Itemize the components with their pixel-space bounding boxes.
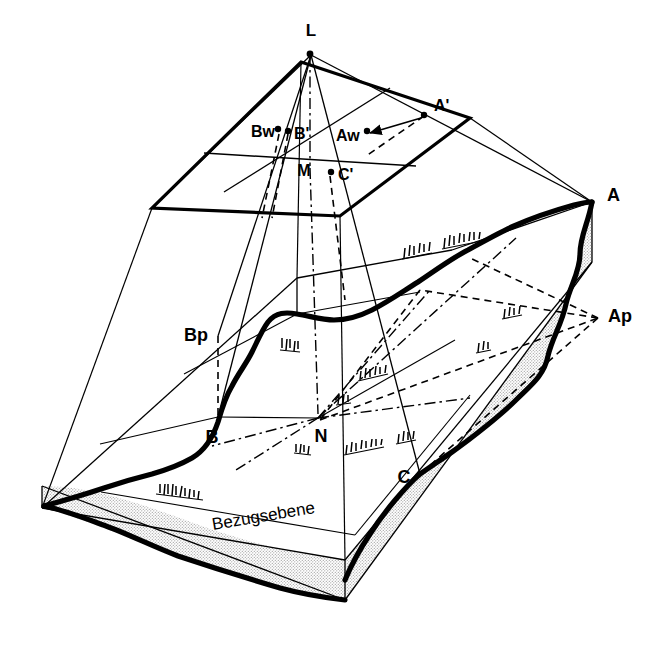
label-Aw: Aw [336, 127, 360, 144]
photogrammetry-diagram: L A' Bw B' Aw M C' A Ap Bp B N C Bezugse… [0, 0, 650, 647]
axis-M-to-N [310, 168, 318, 414]
dashed-Bw-down [262, 134, 279, 218]
ground-line-N-right [318, 340, 455, 418]
vegetation-tuft-plateau [280, 338, 300, 352]
vegetation-tuft-near-C [396, 431, 416, 444]
cone-edge-right [470, 118, 592, 202]
label-M: M [297, 162, 310, 179]
diagram-canvas: L A' Bw B' Aw M C' A Ap Bp B N C Bezugse… [0, 0, 650, 647]
aprime-to-aw-arrow [370, 118, 421, 133]
label-N: N [315, 426, 328, 446]
label-L: L [306, 21, 316, 40]
dot-L [307, 51, 314, 58]
vegetation-tuft-right-upper [502, 306, 522, 319]
label-A-prime: A' [434, 97, 449, 114]
label-B-prime: B' [294, 125, 309, 142]
dot-Aprime [421, 112, 427, 118]
dot-Cprime [328, 169, 334, 175]
nadir-ray-left [212, 418, 318, 446]
dashed-Cprime-down [330, 176, 345, 300]
cone-edge-left [42, 208, 152, 508]
label-bezugsebene: Bezugsebene [211, 498, 317, 534]
label-Ap: Ap [608, 306, 632, 326]
vegetation-tuft-upper-right [402, 232, 482, 259]
ground-line-through-B [100, 417, 218, 444]
label-B: B [206, 427, 219, 447]
vegetation-tuft-left-of-N [294, 444, 311, 455]
vegetation-tuft-low-mid [344, 439, 384, 455]
dot-Bw [275, 126, 281, 132]
nadir-ray-lower-left [236, 418, 318, 470]
vegetation-tuft-left [156, 484, 203, 500]
dot-Bprime [285, 128, 291, 134]
block-top-edge-left-back [42, 278, 297, 508]
arrow-Aprime-Aw [370, 118, 421, 133]
label-C: C [398, 467, 411, 487]
block-side-faces [42, 202, 592, 600]
bezugsebene-edge-right [355, 395, 470, 535]
ray-L-to-B [218, 55, 311, 417]
nadir-ray-right [318, 398, 470, 418]
ground-line-B-to-N [218, 417, 318, 418]
vegetation-tuft-near-Ap-left [476, 341, 491, 353]
terrain-profile-skyline [44, 202, 592, 506]
label-A: A [607, 185, 620, 205]
label-Bw: Bw [251, 123, 276, 140]
label-C-prime: C' [338, 166, 353, 183]
label-Bp: Bp [184, 325, 208, 345]
dot-Aw [364, 128, 370, 134]
construction-dashed-lines [218, 116, 598, 474]
dashed-Aprime-to-Aw [366, 116, 424, 156]
block-face-right [345, 202, 592, 600]
